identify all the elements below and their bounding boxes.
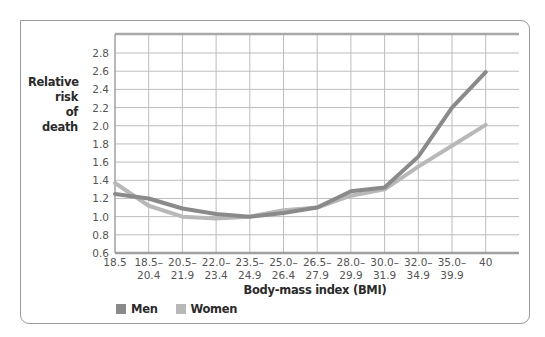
x-tick-label: 26.4 [272, 269, 296, 281]
legend: Men Women [116, 302, 237, 316]
x-tick-label: 26.5– [303, 256, 332, 268]
y-tick-label: 0.8 [92, 229, 109, 241]
x-tick-label: 21.9 [171, 269, 194, 281]
legend-swatch-men [116, 304, 126, 314]
x-tick-label: 28.0– [337, 256, 366, 268]
y-tick-label: 1.0 [92, 211, 109, 223]
x-tick-label: 25.0– [269, 256, 298, 268]
x-tick-label: 34.9 [407, 269, 430, 281]
y-tick-label: 1.4 [92, 174, 109, 186]
x-tick-label: 20.5– [168, 256, 197, 268]
x-tick-label: 20.4 [137, 269, 161, 281]
y-axis-title-line1: Relative risk [28, 75, 78, 105]
x-tick-label: 29.9 [339, 269, 362, 281]
y-tick-label: 2.0 [92, 120, 109, 132]
y-tick-label: 1.6 [92, 156, 109, 168]
x-axis-title: Body-mass index (BMI) [215, 283, 415, 297]
x-tick-label: 40 [479, 256, 492, 268]
y-axis-title-line2: of death [28, 105, 78, 135]
y-tick-label: 1.8 [92, 138, 109, 150]
x-tick-label: 39.9 [440, 269, 463, 281]
y-tick-label: 2.8 [92, 47, 109, 59]
y-tick-label: 2.2 [92, 102, 109, 114]
legend-label-women: Women [191, 302, 238, 316]
legend-label-men: Men [131, 302, 158, 316]
x-tick-label: 24.9 [238, 269, 261, 281]
x-tick-label: 32.0– [404, 256, 433, 268]
legend-item-women: Women [176, 302, 238, 316]
y-tick-label: 2.4 [92, 83, 109, 95]
x-tick-label: 30.0– [370, 256, 399, 268]
x-tick-label: 35.0– [438, 256, 467, 268]
y-tick-label: 1.2 [92, 192, 109, 204]
x-tick-label: 27.9 [306, 269, 329, 281]
x-tick-label: 23.5– [235, 256, 264, 268]
x-tick-label: 22.0– [202, 256, 231, 268]
x-tick-label: 31.9 [373, 269, 396, 281]
x-tick-label: 18.5 [103, 256, 126, 268]
y-tick-label: 2.6 [92, 65, 109, 77]
legend-item-men: Men [116, 302, 158, 316]
x-tick-label: 18.5– [134, 256, 163, 268]
y-axis-title: Relative risk of death [28, 75, 78, 135]
legend-swatch-women [176, 304, 186, 314]
x-tick-label: 23.4 [204, 269, 228, 281]
